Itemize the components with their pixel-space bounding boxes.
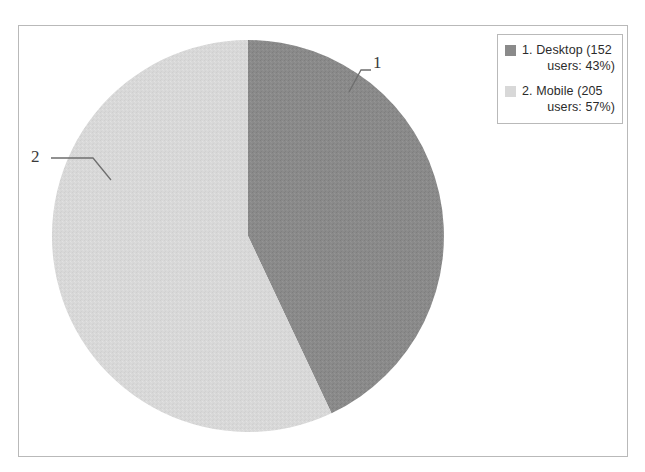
legend-item-mobile[interactable]: 2. Mobile (205 users: 57%) <box>505 83 615 115</box>
legend-label-mobile-line2: users: 57%) <box>522 99 615 115</box>
legend-label-mobile-line1: 2. Mobile (205 <box>522 83 615 99</box>
legend-label-desktop: 1. Desktop (152 users: 43%) <box>522 42 615 74</box>
legend-item-desktop[interactable]: 1. Desktop (152 users: 43%) <box>505 42 615 74</box>
chart-legend: 1. Desktop (152 users: 43%) 2. Mobile (2… <box>497 34 623 124</box>
slice-callout-2: 2 <box>31 148 40 165</box>
legend-label-desktop-line2: users: 43%) <box>522 58 615 74</box>
pie-chart-figure: 1 2 1. Desktop (152 users: 43%) 2. Mobil… <box>0 0 645 472</box>
legend-label-desktop-line1: 1. Desktop (152 <box>522 42 615 58</box>
legend-swatch-mobile <box>505 86 516 97</box>
legend-swatch-desktop <box>505 45 516 56</box>
slice-callout-1: 1 <box>373 54 382 71</box>
legend-label-mobile: 2. Mobile (205 users: 57%) <box>522 83 615 115</box>
